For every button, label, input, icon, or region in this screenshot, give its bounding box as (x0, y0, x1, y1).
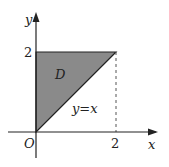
x-axis-arrow-icon (148, 129, 158, 136)
region-label: D (54, 67, 66, 82)
y-axis-label: y (24, 12, 33, 27)
y-axis-arrow-icon (33, 12, 40, 22)
x-axis-label: x (148, 137, 156, 152)
origin-label: O (24, 136, 35, 151)
y-tick-label: 2 (24, 45, 32, 60)
coordinate-diagram: y x O 2 2 D y=x (0, 0, 169, 167)
x-tick-label: 2 (111, 136, 119, 151)
line-label: y=x (71, 101, 98, 116)
region-d (36, 52, 116, 132)
